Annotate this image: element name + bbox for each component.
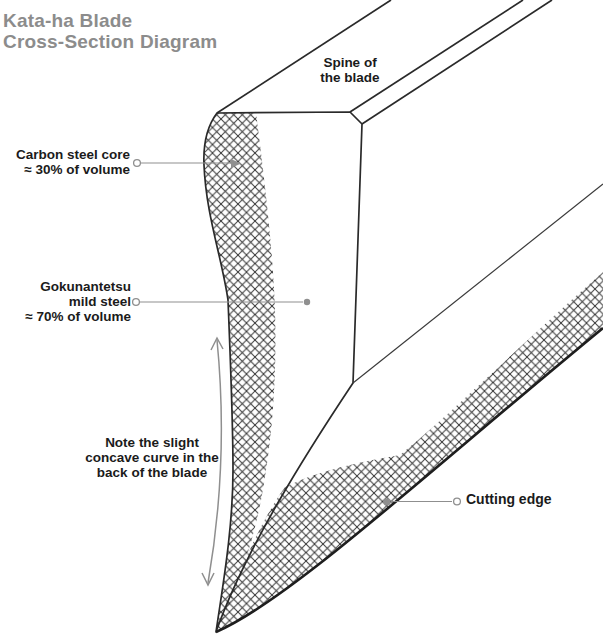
mild-steel-label-line-2: mild steel [0, 294, 131, 309]
spine-label-line-1: Spine of [288, 55, 412, 70]
carbon-leader-circle [134, 160, 141, 167]
mild-steel-leader-circle [133, 299, 140, 306]
cutting-edge-leader-circle [454, 498, 461, 505]
mild-steel-label-line-1: Gokunantetsu [0, 279, 131, 294]
diagram-title: Kata-ha Blade Cross-Section Diagram [3, 10, 217, 52]
mild-steel-leader-dot [304, 299, 310, 305]
cutting-edge-label: Cutting edge [466, 492, 552, 507]
carbon-steel-core-label: Carbon steel core ≈ 30% of volume [0, 147, 130, 177]
kata-ha-cross-section-diagram: Kata-ha Blade Cross-Section Diagram Spin… [0, 0, 603, 638]
note-line-2: concave curve in the [72, 450, 232, 465]
cutting-edge-leader-dot [383, 498, 390, 505]
note-line-1: Note the slight [72, 435, 232, 450]
concave-curve-note: Note the slight concave curve in the bac… [72, 435, 232, 480]
mild-steel-label: Gokunantetsu mild steel ≈ 70% of volume [0, 279, 131, 324]
spine-label-line-2: the blade [288, 70, 412, 85]
carbon-label-line-2: ≈ 30% of volume [0, 162, 130, 177]
note-line-3: back of the blade [72, 465, 232, 480]
spine-label: Spine of the blade [288, 55, 412, 85]
carbon-label-line-1: Carbon steel core [0, 147, 130, 162]
title-line-2: Cross-Section Diagram [3, 31, 217, 52]
mild-steel-label-line-3: ≈ 70% of volume [0, 309, 131, 324]
title-line-1: Kata-ha Blade [3, 10, 217, 31]
